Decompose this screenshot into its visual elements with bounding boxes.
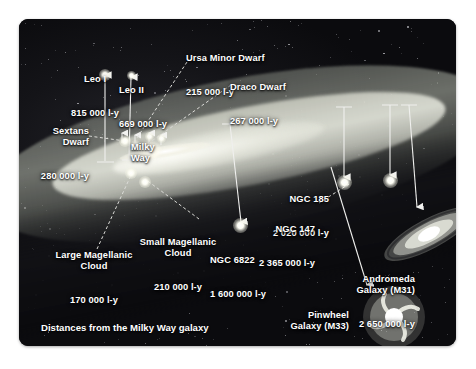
marker-ngc-147: [383, 173, 398, 188]
diagram-stage: Leo I 815 000 l-y Leo II 669 000 l-y Urs…: [0, 0, 476, 369]
label-draco-dwarf: Draco Dwarf 267 000 l-y: [230, 59, 340, 150]
label-draco-dwarf-name: Draco Dwarf: [230, 82, 340, 93]
label-draco-dwarf-distance: 267 000 l-y: [230, 116, 340, 127]
label-sextans-dwarf-distance: 280 000 l-y: [19, 171, 89, 182]
label-ngc-147-distance: 2 365 000 l-y: [205, 258, 315, 269]
marker-ngc-185: [337, 175, 352, 190]
caption-line-1: Distances from the Milky Way galaxy: [41, 321, 301, 334]
diagram-caption: Distances from the Milky Way galaxy are …: [41, 295, 301, 346]
label-sextans-dwarf-name: Sextans Dwarf: [19, 126, 89, 149]
label-ngc-147: NGC 147 2 365 000 l-y: [205, 201, 315, 292]
label-milky-way: Milky Way: [131, 119, 185, 187]
label-milky-way-name: Milky Way: [131, 142, 185, 165]
astronomy-diagram-image: Leo I 815 000 l-y Leo II 669 000 l-y Urs…: [19, 19, 456, 346]
label-sextans-dwarf: Sextans Dwarf 280 000 l-y: [19, 103, 89, 206]
label-ngc-147-name: NGC 147: [205, 224, 315, 235]
